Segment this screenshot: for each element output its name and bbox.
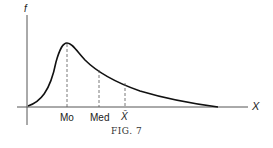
- figure-caption: FIG. 7: [111, 126, 142, 136]
- mean-label: X̄: [121, 111, 128, 122]
- x-axis-label: X: [252, 100, 259, 112]
- y-axis-label: f: [24, 3, 27, 14]
- distribution-curve: [28, 43, 218, 107]
- median-label: Med: [90, 112, 109, 123]
- mode-label: Mo: [60, 112, 74, 123]
